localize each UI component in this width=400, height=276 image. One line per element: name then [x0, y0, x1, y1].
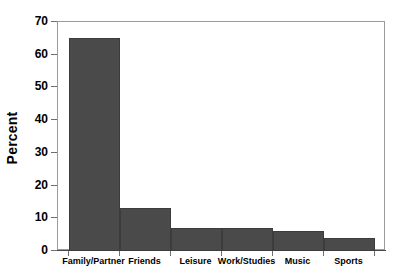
x-tick-mark [68, 251, 69, 256]
bar-sports [324, 238, 375, 251]
y-tick-label: 0 [8, 243, 48, 257]
y-tick-label: 10 [8, 210, 48, 224]
bar-work-studies [222, 228, 273, 251]
bar-leisure [171, 228, 222, 251]
y-tick-mark [51, 152, 57, 153]
x-tick-label: Sports [334, 256, 363, 266]
y-tick-label: 40 [8, 112, 48, 126]
bar-chart-figure: Percent 010203040506070 Family/PartnerFr… [0, 0, 400, 276]
y-tick-mark [51, 217, 57, 218]
x-tick-mark [374, 251, 375, 256]
y-axis-title: Percent [0, 0, 24, 276]
bar-family-partner [69, 38, 120, 251]
x-tick-label: Leisure [179, 256, 211, 266]
x-tick-label: Friends [128, 256, 161, 266]
y-tick-mark [51, 250, 57, 251]
x-tick-mark [170, 251, 171, 256]
y-tick-mark [51, 119, 57, 120]
y-tick-label: 50 [8, 79, 48, 93]
y-tick-label: 30 [8, 145, 48, 159]
bar-friends [120, 208, 171, 251]
bar-music [273, 231, 324, 251]
x-tick-label: Music [285, 256, 311, 266]
y-tick-mark [51, 54, 57, 55]
plot-area [57, 21, 385, 250]
y-tick-label: 70 [8, 14, 48, 28]
x-tick-label: Work/Studies [218, 256, 275, 266]
y-tick-mark [51, 86, 57, 87]
y-tick-mark [51, 185, 57, 186]
x-tick-mark [323, 251, 324, 256]
y-tick-label: 20 [8, 178, 48, 192]
y-tick-label: 60 [8, 47, 48, 61]
y-tick-mark [51, 21, 57, 22]
x-tick-label: Family/Partner [62, 256, 125, 266]
